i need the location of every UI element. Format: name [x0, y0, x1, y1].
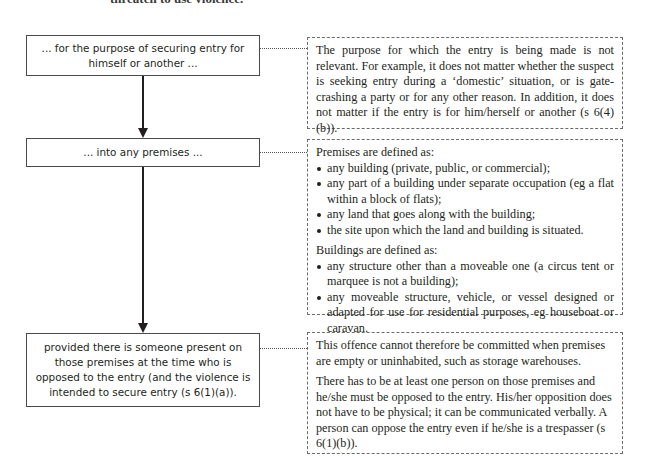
premises-item: any building (private, public, or commer… — [316, 161, 614, 177]
arrow-line — [142, 167, 144, 324]
note-premises-definition: Premises are defined as: any building (p… — [307, 139, 623, 315]
note-paragraph: This offence cannot therefore be committ… — [316, 338, 614, 369]
flow-step-label: ... into any premises ... — [83, 145, 202, 160]
note-opposition: This offence cannot therefore be committ… — [307, 332, 623, 454]
note-paragraph: The purpose for which the entry is being… — [316, 43, 614, 136]
note-purpose: The purpose for which the entry is being… — [307, 37, 623, 129]
buildings-list: any structure other than a moveable one … — [316, 259, 614, 337]
dotted-connector — [260, 152, 307, 153]
buildings-item: any structure other than a moveable one … — [316, 259, 614, 290]
dotted-connector — [260, 348, 307, 349]
flow-step-purpose: ... for the purpose of securing entry fo… — [26, 35, 260, 76]
premises-item: any part of a building under separate oc… — [316, 176, 614, 207]
buildings-heading: Buildings are defined as: — [316, 243, 614, 259]
premises-item: any land that goes along with the buildi… — [316, 207, 614, 223]
flow-step-opposition: provided there is someone present on tho… — [26, 333, 260, 407]
buildings-item: any moveable structure, vehicle, or vess… — [316, 290, 614, 337]
arrow-line — [142, 76, 144, 129]
premises-heading: Premises are defined as: — [316, 145, 614, 161]
flow-step-premises: ... into any premises ... — [26, 138, 260, 167]
flow-step-label: provided there is someone present on tho… — [35, 340, 251, 400]
dotted-connector — [260, 48, 307, 49]
flow-step-label: ... for the purpose of securing entry fo… — [35, 41, 251, 71]
note-paragraph: There has to be at least one person on t… — [316, 374, 614, 452]
premises-item: the site upon which the land and buildin… — [316, 223, 614, 239]
arrow-down-icon — [138, 323, 148, 333]
preceding-text-fragment: threaten to use violence. — [110, 0, 243, 7]
arrow-down-icon — [138, 128, 148, 138]
premises-list: any building (private, public, or commer… — [316, 161, 614, 239]
